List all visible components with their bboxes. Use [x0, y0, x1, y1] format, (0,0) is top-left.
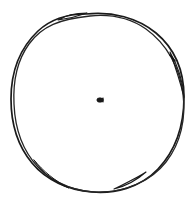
center-dot-group — [97, 98, 103, 103]
canvas-background — [0, 0, 194, 208]
drawing-surface — [0, 0, 194, 208]
sketch-canvas — [0, 0, 194, 208]
